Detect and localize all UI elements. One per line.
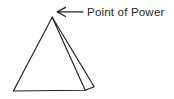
pyramid-right-face <box>52 17 94 90</box>
diagram-canvas: Point of Power <box>0 0 174 99</box>
pyramid-diagram-figure: Point of Power <box>0 0 174 99</box>
callout-label: Point of Power <box>87 5 165 18</box>
